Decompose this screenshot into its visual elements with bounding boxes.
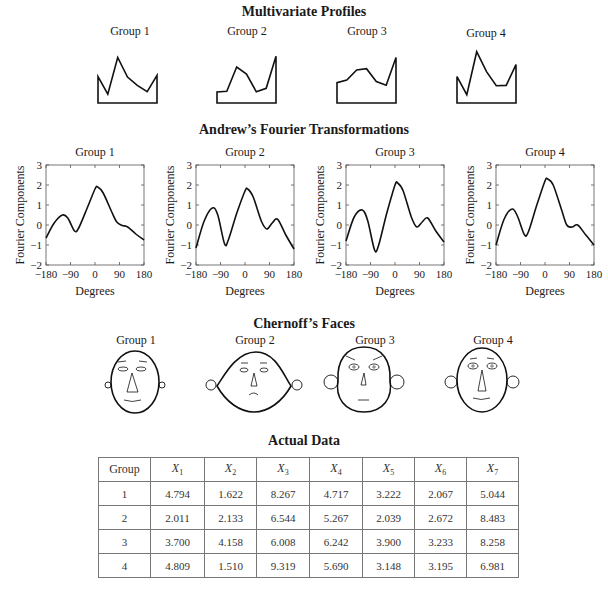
x-tick-label: 90 xyxy=(264,268,276,280)
cell: 3.222 xyxy=(363,482,415,506)
header-x4: X4 xyxy=(310,458,363,482)
cell-group: 4 xyxy=(99,554,151,578)
chernoff-faces xyxy=(0,340,608,420)
x-tick-label: −90 xyxy=(62,268,80,280)
cell: 3.700 xyxy=(151,530,205,554)
cell: 4.794 xyxy=(151,482,205,506)
y-axis-label: Fourier Components xyxy=(313,165,327,264)
cell: 2.011 xyxy=(151,506,205,530)
y-tick-label: 1 xyxy=(337,199,343,211)
fourier-curve xyxy=(196,188,294,249)
y-tick-label: 3 xyxy=(187,159,193,171)
profile-group-3 xyxy=(337,58,396,103)
fourier-plot-group-1: Group 13210−1−2−180−90090180DegreesFouri… xyxy=(13,145,153,298)
fourier-group-label: Group 1 xyxy=(75,145,115,159)
cell: 8.267 xyxy=(257,482,310,506)
y-tick-label: 2 xyxy=(37,179,43,191)
fourier-plot-group-3: Group 33210−1−2−180−90090180DegreesFouri… xyxy=(313,145,453,298)
y-tick-label: −1 xyxy=(330,239,342,251)
cell: 5.267 xyxy=(310,506,363,530)
table-header-row: Group X1 X2 X3 X4 X5 X6 X7 xyxy=(99,458,519,482)
x-tick-label: 90 xyxy=(414,268,426,280)
y-tick-label: 0 xyxy=(487,219,493,231)
y-tick-label: 1 xyxy=(37,199,43,211)
header-x6: X6 xyxy=(415,458,467,482)
cell: 3.195 xyxy=(415,554,467,578)
x-tick-label: 0 xyxy=(392,268,398,280)
x-tick-label: −90 xyxy=(512,268,530,280)
cell: 2.039 xyxy=(363,506,415,530)
x-tick-label: 180 xyxy=(286,268,303,280)
x-tick-label: 180 xyxy=(586,268,603,280)
cell: 6.544 xyxy=(257,506,310,530)
cell: 4.809 xyxy=(151,554,205,578)
cell: 1.510 xyxy=(205,554,257,578)
y-tick-label: 0 xyxy=(187,219,193,231)
x-tick-label: 0 xyxy=(542,268,548,280)
cell: 5.044 xyxy=(467,482,519,506)
cell: 2.672 xyxy=(415,506,467,530)
x-tick-label: −180 xyxy=(35,268,58,280)
y-tick-label: 2 xyxy=(337,179,343,191)
fourier-group-label: Group 3 xyxy=(375,145,415,159)
data-table: Group X1 X2 X3 X4 X5 X6 X7 1 4.794 1.622… xyxy=(98,457,519,578)
y-tick-label: 0 xyxy=(337,219,343,231)
cell: 6.008 xyxy=(257,530,310,554)
table-title: Actual Data xyxy=(0,433,608,449)
header-group: Group xyxy=(99,458,151,482)
y-tick-label: 1 xyxy=(487,199,493,211)
x-tick-label: −180 xyxy=(335,268,358,280)
y-axis-label: Fourier Components xyxy=(163,165,177,264)
cell: 3.233 xyxy=(415,530,467,554)
cell: 8.483 xyxy=(467,506,519,530)
face-group-4 xyxy=(445,348,519,412)
x-tick-label: −180 xyxy=(485,268,508,280)
y-tick-label: 2 xyxy=(487,179,493,191)
y-tick-label: 3 xyxy=(487,159,493,171)
x-tick-label: 0 xyxy=(242,268,248,280)
cell: 5.690 xyxy=(310,554,363,578)
x-tick-label: −180 xyxy=(185,268,208,280)
table-row: 4 4.809 1.510 9.319 5.690 3.148 3.195 6.… xyxy=(99,554,519,578)
fourier-curve xyxy=(46,186,144,240)
cell: 3.900 xyxy=(363,530,415,554)
cell-group: 3 xyxy=(99,530,151,554)
y-axis-label: Fourier Components xyxy=(463,165,477,264)
cell: 6.242 xyxy=(310,530,363,554)
y-tick-label: −1 xyxy=(480,239,492,251)
y-tick-label: 0 xyxy=(37,219,43,231)
y-tick-label: 1 xyxy=(187,199,193,211)
profile-group-2 xyxy=(217,56,276,103)
header-x3: X3 xyxy=(257,458,310,482)
x-axis-label: Degrees xyxy=(375,284,415,298)
face-group-1 xyxy=(105,351,165,413)
header-x5: X5 xyxy=(363,458,415,482)
x-tick-label: 90 xyxy=(114,268,126,280)
cell: 3.148 xyxy=(363,554,415,578)
x-tick-label: 0 xyxy=(92,268,98,280)
profile-group-4 xyxy=(457,52,516,103)
x-axis-label: Degrees xyxy=(225,284,265,298)
y-tick-label: 3 xyxy=(37,159,43,171)
table-row: 2 2.011 2.133 6.544 5.267 2.039 2.672 8.… xyxy=(99,506,519,530)
fourier-plot-group-4: Group 43210−1−2−180−90090180DegreesFouri… xyxy=(463,145,603,298)
y-tick-label: 2 xyxy=(187,179,193,191)
header-x2: X2 xyxy=(205,458,257,482)
cell: 6.981 xyxy=(467,554,519,578)
faces-title: Chernoff’s Faces xyxy=(0,316,608,332)
fourier-group-label: Group 2 xyxy=(225,145,265,159)
profiles-chart xyxy=(0,0,608,110)
x-axis-label: Degrees xyxy=(75,284,115,298)
fourier-curve xyxy=(346,182,444,252)
fourier-curve xyxy=(496,178,594,245)
header-x1: X1 xyxy=(151,458,205,482)
cell: 4.158 xyxy=(205,530,257,554)
cell: 9.319 xyxy=(257,554,310,578)
y-axis-label: Fourier Components xyxy=(13,165,27,264)
header-x7: X7 xyxy=(467,458,519,482)
x-tick-label: 90 xyxy=(564,268,576,280)
face-group-3 xyxy=(324,347,404,412)
fourier-charts: Group 13210−1−2−180−90090180DegreesFouri… xyxy=(0,130,608,305)
cell: 1.622 xyxy=(205,482,257,506)
profile-group-1 xyxy=(98,58,157,104)
